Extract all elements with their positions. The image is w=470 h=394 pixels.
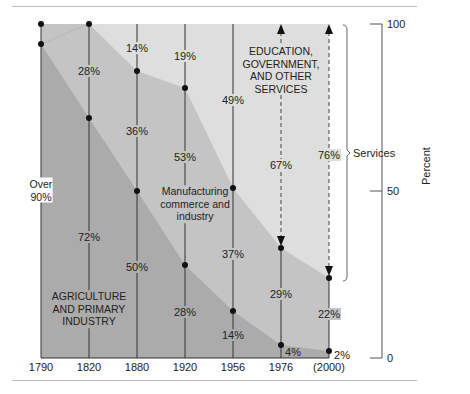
x-tick-1976: 1976	[269, 361, 293, 373]
services-line-3: AND OTHER	[242, 70, 319, 83]
agriculture-caption: AGRICULTURE AND PRIMARY INDUSTRY	[52, 290, 126, 328]
y-axis-title: Percent	[420, 147, 432, 185]
over-label: Over	[30, 178, 53, 191]
services-bracket-label: Services	[353, 147, 395, 159]
label-1920-manufacturing: 53%	[173, 151, 197, 163]
manufacturing-line-1: Manufacturing	[160, 185, 229, 198]
manufacturing-line-3: industry	[160, 210, 229, 223]
ninety-label: 90%	[30, 190, 53, 203]
label-2000-manufacturing: 22%	[317, 308, 341, 320]
label-1956-manufacturing: 37%	[221, 248, 245, 260]
x-tick-2000: (2000)	[313, 361, 345, 373]
label-1880-services: 14%	[125, 42, 149, 54]
label-1820-manufacturing: 28%	[77, 65, 101, 77]
manufacturing-caption: Manufacturing commerce and industry	[160, 185, 229, 223]
y-tick-100: 100	[387, 18, 405, 30]
agriculture-line-3: INDUSTRY	[52, 315, 126, 328]
over-90-label: Over 90%	[30, 178, 53, 203]
services-line-4: SERVICES	[242, 83, 319, 96]
label-1880-agriculture: 50%	[125, 261, 149, 273]
services-bracket	[343, 25, 350, 281]
label-1956-services: 49%	[221, 94, 245, 106]
services-caption: EDUCATION, GOVERNMENT, AND OTHER SERVICE…	[242, 45, 319, 95]
label-2000-agriculture: 2%	[333, 349, 351, 361]
x-tick-1956: 1956	[221, 361, 245, 373]
y-tick-0: 0	[387, 352, 393, 364]
label-1880-manufacturing: 36%	[125, 125, 149, 137]
agriculture-line-2: AND PRIMARY	[52, 303, 126, 316]
manufacturing-line-2: commerce and	[160, 198, 229, 211]
label-2000-services: 76%	[317, 149, 341, 161]
percent-axis	[370, 24, 382, 358]
services-line-2: GOVERNMENT,	[242, 58, 319, 71]
agriculture-line-1: AGRICULTURE	[52, 290, 126, 303]
label-1820-agriculture: 72%	[77, 231, 101, 243]
x-tick-1880: 1880	[125, 361, 149, 373]
label-1976-manufacturing: 29%	[269, 288, 293, 300]
label-1956-agriculture: 14%	[221, 329, 245, 341]
label-1920-agriculture: 28%	[173, 306, 197, 318]
x-tick-1920: 1920	[173, 361, 197, 373]
y-tick-50: 50	[387, 185, 399, 197]
x-tick-1790: 1790	[29, 361, 53, 373]
label-1920-services: 19%	[173, 50, 197, 62]
services-line-1: EDUCATION,	[242, 45, 319, 58]
label-1976-services: 67%	[269, 159, 293, 171]
label-1976-agriculture: 4%	[284, 346, 302, 358]
x-tick-1820: 1820	[77, 361, 101, 373]
